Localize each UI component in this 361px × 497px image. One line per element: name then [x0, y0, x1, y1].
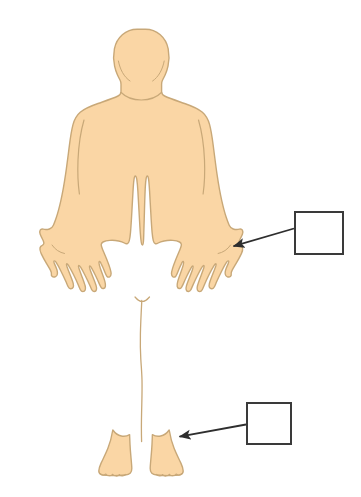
label-box-lower[interactable]: [246, 402, 292, 445]
arrow-to-right-foot: [180, 425, 247, 437]
label-box-upper-text: [296, 213, 342, 253]
label-box-upper[interactable]: [294, 211, 344, 255]
body-outline-path: [40, 29, 243, 291]
right-foot: [150, 430, 183, 476]
leg-separation-line: [140, 301, 142, 442]
diagram-canvas: [0, 0, 361, 497]
left-foot: [99, 430, 132, 476]
label-box-lower-text: [248, 404, 290, 443]
human-body-figure: [40, 29, 243, 476]
